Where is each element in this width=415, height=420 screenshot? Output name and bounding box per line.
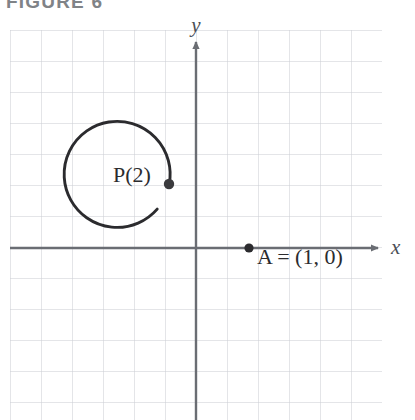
figure-root: FIGURE 6 y x P(2) A = (1, 0) bbox=[0, 0, 415, 420]
point-a-label: A = (1, 0) bbox=[257, 244, 343, 269]
point-a-marker bbox=[244, 243, 253, 252]
point-p2-marker bbox=[164, 179, 174, 189]
coordinate-plane: y x P(2) A = (1, 0) bbox=[0, 0, 415, 420]
x-axis-label: x bbox=[390, 235, 401, 259]
y-axis-label: y bbox=[189, 13, 201, 37]
point-p2-label: P(2) bbox=[113, 162, 151, 187]
